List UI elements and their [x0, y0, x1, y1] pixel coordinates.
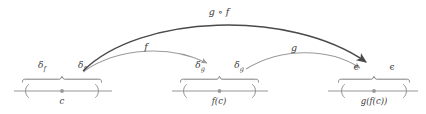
- arrow-g-path: [246, 53, 360, 69]
- domain-center-dot: [60, 89, 64, 93]
- codomain-axis-group: [328, 76, 418, 97]
- intermediate-center-dot: [218, 89, 222, 93]
- diagram-vector-layer: [0, 0, 426, 114]
- codomain-brace: [339, 76, 410, 82]
- arrow-g-compose-f-path: [83, 25, 366, 71]
- figure-canvas: δf δf c δg δg f(c) ϵ ϵ g(f(c)) f g g ∘ f: [0, 0, 426, 114]
- domain-brace: [23, 76, 102, 82]
- intermediate-brace: [181, 76, 259, 82]
- intermediate-axis-group: [172, 76, 268, 97]
- codomain-center-dot: [372, 89, 376, 93]
- arrow-f-path: [84, 51, 207, 71]
- domain-axis-group: [14, 76, 112, 97]
